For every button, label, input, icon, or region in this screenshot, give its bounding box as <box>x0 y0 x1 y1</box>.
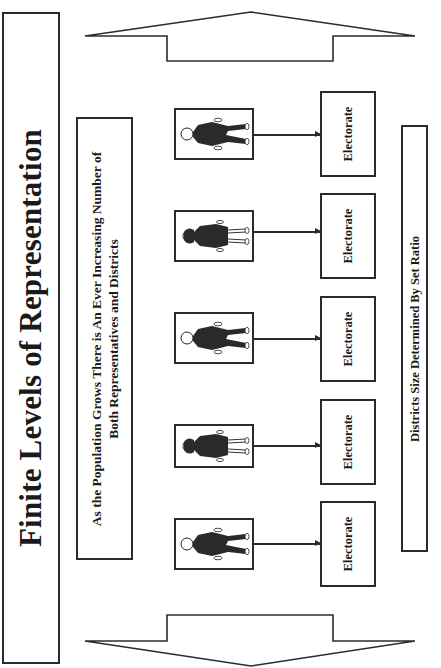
subtitle-box: As the Population Grows There is An Ever… <box>76 117 133 560</box>
up-arrow-icon <box>0 0 441 64</box>
electorate-label: Electorate <box>341 517 356 572</box>
representative-box <box>174 312 254 364</box>
electorate-label: Electorate <box>341 209 356 264</box>
male-representative-icon <box>176 110 252 158</box>
down-arrow-icon <box>0 604 441 668</box>
electorate-label: Electorate <box>341 107 356 162</box>
electorate-label: Electorate <box>341 312 356 367</box>
subtitle-text: As the Population Grows There is An Ever… <box>88 151 122 525</box>
female-representative-icon <box>176 426 252 466</box>
title-box: Finite Levels of Representation <box>2 12 60 664</box>
ratio-note-text: Districts Size Determined By Set Ratio <box>407 236 422 442</box>
male-representative-icon <box>176 520 252 568</box>
connector-arrow <box>254 134 320 136</box>
subtitle-line-2: Both Representatives and Districts <box>105 151 122 525</box>
connector-arrow <box>254 543 320 545</box>
connector-arrow <box>254 231 320 233</box>
electorate-label: Electorate <box>341 415 356 470</box>
electorate-box: Electorate <box>320 399 376 485</box>
representative-box <box>174 424 254 468</box>
electorate-box: Electorate <box>320 193 376 279</box>
connector-arrow <box>254 338 320 340</box>
representative-box <box>174 210 254 262</box>
electorate-box: Electorate <box>320 296 376 382</box>
subtitle-line-1: As the Population Grows There is An Ever… <box>88 151 105 525</box>
female-representative-icon <box>176 212 252 260</box>
representative-box <box>174 518 254 570</box>
male-representative-icon <box>176 314 252 362</box>
electorate-box: Electorate <box>320 91 376 177</box>
electorate-box: Electorate <box>320 501 376 587</box>
ratio-note-box: Districts Size Determined By Set Ratio <box>401 125 428 552</box>
diagram-title: Finite Levels of Representation <box>13 129 49 547</box>
representative-box <box>174 108 254 160</box>
connector-arrow <box>254 445 320 447</box>
